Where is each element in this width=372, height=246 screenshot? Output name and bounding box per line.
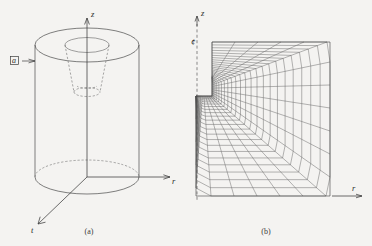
- mesh-line: [217, 71, 222, 72]
- mesh-line: [214, 100, 216, 102]
- mesh-line: [241, 114, 246, 118]
- mesh-line: [269, 64, 270, 75]
- mesh-line: [236, 134, 240, 139]
- mesh-line: [327, 42, 330, 62]
- mesh-line: [224, 78, 227, 79]
- mesh-line: [225, 165, 227, 172]
- mesh-line: [247, 65, 252, 67]
- mesh-line: [246, 60, 250, 62]
- mesh-line: [212, 100, 213, 102]
- mesh-line: [224, 107, 227, 110]
- mesh-line: [207, 100, 208, 102]
- mesh-line: [311, 105, 320, 106]
- mesh-line: [296, 42, 304, 45]
- mesh-line: [228, 92, 232, 93]
- mesh-line: [224, 129, 227, 134]
- mesh-line: [290, 151, 293, 165]
- mesh-line: [219, 120, 221, 124]
- mesh-line: [231, 76, 235, 78]
- mesh-line: [223, 116, 226, 120]
- mesh-line: [228, 106, 232, 109]
- mesh-line: [302, 122, 311, 125]
- mesh-line: [231, 108, 232, 112]
- mesh-line: [209, 165, 210, 172]
- mesh-line: [246, 110, 252, 113]
- mesh-line: [232, 93, 236, 94]
- mesh-line: [244, 118, 245, 124]
- mesh-line: [219, 76, 221, 77]
- mesh-line: [220, 74, 224, 75]
- mesh-line: [302, 157, 311, 163]
- mesh-line: [232, 82, 236, 83]
- mesh-line: [293, 135, 302, 139]
- mesh-line: [233, 42, 235, 45]
- mesh-line: [275, 151, 282, 158]
- mesh-line: [201, 122, 206, 124]
- mesh-line: [221, 124, 223, 129]
- mesh-line: [234, 73, 240, 74]
- mesh-line: [217, 82, 219, 83]
- mesh-line: [263, 172, 268, 180]
- mesh-line: [269, 61, 276, 64]
- mesh-line: [208, 104, 209, 107]
- mesh-line: [262, 130, 264, 139]
- mesh-line: [212, 64, 221, 65]
- mesh-line: [215, 97, 217, 98]
- mesh-line: [231, 113, 235, 117]
- mesh-line: [238, 158, 241, 165]
- mesh-line: [308, 46, 317, 49]
- mesh-line: [320, 170, 330, 177]
- mesh-line: [222, 78, 225, 79]
- mesh-line: [262, 140, 269, 146]
- mesh-line: [255, 126, 257, 134]
- mesh-line: [227, 109, 231, 112]
- mesh-line: [263, 109, 270, 111]
- mesh-line: [214, 75, 216, 76]
- mesh-line: [251, 122, 257, 126]
- mesh-line: [250, 57, 254, 60]
- mesh-line: [212, 120, 213, 124]
- mesh-line: [250, 69, 256, 71]
- mesh-line: [263, 120, 270, 124]
- mesh-line: [229, 140, 232, 146]
- mesh-line: [320, 128, 330, 131]
- mesh-line: [242, 70, 250, 71]
- mesh-line: [225, 69, 232, 70]
- mesh-line: [251, 77, 257, 78]
- side-load-symbol-label: a: [12, 56, 16, 65]
- mesh-line: [235, 151, 238, 158]
- mesh-line: [216, 81, 218, 82]
- mesh-line: [283, 55, 291, 58]
- mesh-line: [241, 101, 246, 103]
- panel-b-r-axis: [332, 194, 362, 198]
- mesh-line: [235, 76, 236, 81]
- mesh-line: [223, 58, 224, 60]
- mesh-line: [283, 158, 291, 165]
- mesh-line: [258, 165, 263, 172]
- mesh-line: [228, 82, 232, 83]
- mesh-line: [207, 102, 208, 104]
- mesh-line: [199, 97, 201, 98]
- mesh-line: [276, 61, 278, 73]
- mesh-line: [285, 116, 293, 119]
- panel-b: z ¢ r (b): [191, 8, 362, 236]
- mesh-line: [224, 92, 227, 93]
- mesh-line: [216, 134, 218, 139]
- mesh-line: [212, 69, 218, 70]
- mesh-line: [320, 149, 330, 154]
- mesh-line: [251, 104, 257, 106]
- mesh-line: [244, 51, 247, 54]
- mesh-line: [246, 118, 252, 122]
- mesh-line: [232, 129, 236, 134]
- mesh-line: [259, 54, 275, 55]
- mesh-line: [317, 46, 320, 64]
- mesh-line: [217, 95, 219, 96]
- mesh-line: [311, 125, 320, 128]
- mesh-line: [229, 124, 232, 129]
- mesh-line: [239, 114, 240, 120]
- mesh-line: [232, 64, 242, 65]
- mesh-line: [210, 180, 211, 188]
- mesh-line: [232, 188, 234, 196]
- mesh-line: [242, 62, 246, 64]
- mesh-line: [232, 69, 235, 71]
